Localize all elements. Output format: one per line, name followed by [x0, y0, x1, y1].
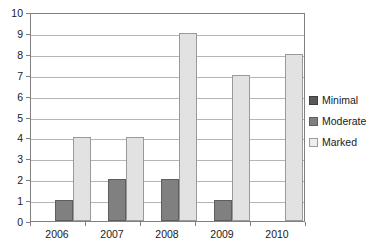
x-tick-label-2007: 2007 — [100, 228, 123, 240]
x-tick-label-2009: 2009 — [210, 228, 233, 240]
legend-item-marked: Marked — [309, 134, 375, 150]
y-tick-label: 8 — [17, 50, 23, 60]
x-tick-mark — [140, 222, 141, 226]
y-tick-label: 10 — [11, 8, 23, 18]
legend-label: Minimal — [322, 95, 358, 106]
x-tick-label-2008: 2008 — [155, 228, 178, 240]
legend-label: Marked — [322, 137, 357, 148]
bar-marked-2006 — [73, 137, 91, 221]
bar-marked-2010 — [285, 54, 303, 221]
y-tick-label: 6 — [17, 92, 23, 102]
x-tick-mark — [305, 222, 306, 226]
legend-swatch-icon — [309, 96, 318, 105]
x-tick-mark — [195, 222, 196, 226]
y-tick-label: 3 — [17, 154, 23, 164]
x-tick-label-2006: 2006 — [45, 228, 68, 240]
y-tick-label: 1 — [17, 196, 23, 206]
x-tick-mark — [30, 222, 31, 226]
y-axis: 10 9 8 7 6 5 4 3 2 1 0 — [0, 0, 30, 249]
x-tick-mark — [250, 222, 251, 226]
bar-marked-2008 — [179, 33, 197, 221]
y-tick-label: 7 — [17, 71, 23, 81]
bar-chart: 10 9 8 7 6 5 4 3 2 1 0 — [0, 0, 375, 249]
legend-item-minimal: Minimal — [309, 92, 375, 108]
bars-layer — [31, 14, 304, 221]
y-tick-label: 5 — [17, 113, 23, 123]
legend-item-moderate: Moderate — [309, 113, 375, 129]
legend: Minimal Moderate Marked — [309, 92, 375, 155]
bar-marked-2007 — [126, 137, 144, 221]
bar-moderate-2007 — [108, 179, 126, 221]
y-tick-label: 2 — [17, 175, 23, 185]
y-tick-label: 0 — [17, 217, 23, 227]
x-tick-label-2010: 2010 — [265, 228, 288, 240]
x-tick-mark — [85, 222, 86, 226]
y-tick-label: 4 — [17, 133, 23, 143]
legend-swatch-icon — [309, 138, 318, 147]
legend-label: Moderate — [322, 116, 366, 127]
bar-moderate-2009 — [214, 200, 232, 221]
bar-marked-2009 — [232, 75, 250, 221]
bar-moderate-2006 — [55, 200, 73, 221]
bar-moderate-2008 — [161, 179, 179, 221]
plot-area — [30, 13, 305, 222]
legend-swatch-icon — [309, 117, 318, 126]
y-tick-label: 9 — [17, 29, 23, 39]
